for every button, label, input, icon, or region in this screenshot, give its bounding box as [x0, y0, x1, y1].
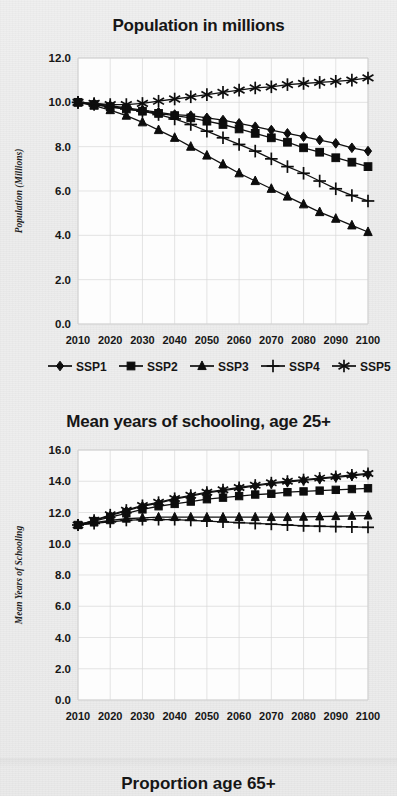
legend-label: SSP5	[360, 360, 391, 374]
y-axis-title: Mean Years of Schooling	[14, 526, 24, 626]
chart-panel-schooling: Mean years of schooling, age 25+ 0.02.04…	[0, 398, 397, 758]
x-axis-tick-label: 2100	[356, 334, 380, 346]
y-axis-tick-label: 0.0	[55, 318, 71, 330]
x-axis-tick-label: 2070	[259, 334, 283, 346]
page-title-population: Population in millions	[0, 0, 397, 36]
y-axis-tick-label: 8.0	[55, 569, 71, 581]
population-chart-svg: 0.02.04.06.08.010.012.020102020203020402…	[0, 36, 397, 386]
legend-item-ssp2[interactable]: SSP2	[119, 360, 178, 374]
y-axis-tick-label: 12.0	[49, 52, 71, 64]
legend-label: SSP2	[147, 360, 178, 374]
legend-item-ssp3[interactable]: SSP3	[190, 360, 249, 374]
legend-label: SSP4	[289, 360, 320, 374]
x-axis-tick-label: 2050	[195, 334, 219, 346]
x-axis-tick-label: 2060	[227, 710, 251, 722]
y-axis-tick-label: 8.0	[55, 141, 71, 153]
chart-panel-population: Population in millions 0.02.04.06.08.010…	[0, 0, 397, 390]
legend-label: SSP3	[218, 360, 249, 374]
x-axis-tick-label: 2060	[227, 334, 251, 346]
x-axis-tick-label: 2090	[324, 334, 348, 346]
legend-label: SSP1	[76, 360, 107, 374]
y-axis-tick-label: 16.0	[49, 444, 71, 456]
y-axis-tick-label: 0.0	[55, 694, 71, 706]
legend-item-ssp5[interactable]: SSP5	[332, 360, 391, 374]
y-axis-tick-label: 12.0	[49, 507, 71, 519]
x-axis-tick-label: 2080	[291, 334, 315, 346]
legend-item-ssp1[interactable]: SSP1	[48, 360, 107, 374]
y-axis-tick-label: 6.0	[55, 185, 71, 197]
chart-panel-proportion65: Proportion age 65+	[0, 758, 397, 796]
y-axis-tick-label: 6.0	[55, 600, 71, 612]
y-axis-tick-label: 4.0	[55, 229, 71, 241]
page-title-schooling: Mean years of schooling, age 25+	[0, 398, 397, 432]
y-axis-tick-label: 14.0	[49, 475, 71, 487]
x-axis-tick-label: 2010	[66, 334, 90, 346]
x-axis-tick-label: 2010	[66, 710, 90, 722]
y-axis-title: Population (Millions)	[14, 149, 25, 234]
y-axis-tick-label: 10.0	[49, 96, 71, 108]
panel-divider	[0, 758, 397, 768]
y-axis-tick-label: 2.0	[55, 274, 71, 286]
x-axis-tick-label: 2030	[130, 334, 154, 346]
x-axis-tick-label: 2050	[195, 710, 219, 722]
x-axis-tick-label: 2090	[324, 710, 348, 722]
x-axis-tick-label: 2080	[291, 710, 315, 722]
y-axis-tick-label: 4.0	[55, 632, 71, 644]
legend-item-ssp4[interactable]: SSP4	[261, 360, 320, 374]
y-axis-tick-label: 10.0	[49, 538, 71, 550]
x-axis-tick-label: 2020	[98, 334, 122, 346]
x-axis-tick-label: 2020	[98, 710, 122, 722]
plot-area-schooling: 0.02.04.06.08.010.012.014.016.0201020202…	[0, 432, 397, 762]
y-axis-tick-label: 2.0	[55, 663, 71, 675]
x-axis-tick-label: 2030	[130, 710, 154, 722]
x-axis-tick-label: 2040	[162, 710, 186, 722]
x-axis-tick-label: 2070	[259, 710, 283, 722]
x-axis-tick-label: 2040	[162, 334, 186, 346]
plot-area-population: 0.02.04.06.08.010.012.020102020203020402…	[0, 36, 397, 386]
schooling-chart-svg: 0.02.04.06.08.010.012.014.016.0201020202…	[0, 432, 397, 762]
x-axis-tick-label: 2100	[356, 710, 380, 722]
